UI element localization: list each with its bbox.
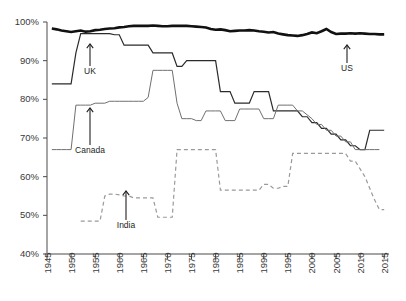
x-tick-label: 1950 [66,252,77,273]
line-chart: 40%50%60%70%80%90%100% 19451950195519601… [0,0,406,301]
x-axis-group: 1945195019551960196519701975198019851990… [42,252,390,273]
annotation-label-us: US [341,63,353,73]
x-tick-label: 1990 [258,252,269,273]
annotation-label-canada: Canada [75,145,105,155]
y-tick-label: 100% [15,16,40,27]
x-tick-label: 1970 [162,252,173,273]
x-tick-label: 1945 [42,252,53,273]
chart-background [0,0,406,301]
x-tick-label: 1955 [90,252,101,273]
x-tick-label: 1975 [186,252,197,273]
x-tick-label: 1980 [210,252,221,273]
chart-container: 40%50%60%70%80%90%100% 19451950195519601… [0,0,406,301]
x-tick-label: 2015 [379,252,390,273]
y-tick-label: 60% [20,171,40,182]
y-tick-label: 70% [20,132,40,143]
x-tick-label: 1985 [234,252,245,273]
annotation-label-uk: UK [84,66,96,76]
x-tick-label: 2010 [355,252,366,273]
y-tick-label: 90% [20,55,40,66]
y-tick-label: 80% [20,93,40,104]
x-tick-label: 1965 [138,252,149,273]
x-tick-label: 2000 [306,252,317,273]
x-tick-label: 1960 [114,252,125,273]
annotation-label-india: India [117,220,136,230]
y-tick-label: 50% [20,209,40,220]
x-tick-label: 1995 [282,252,293,273]
y-tick-label: 40% [20,248,40,259]
x-tick-label: 2005 [331,252,342,273]
